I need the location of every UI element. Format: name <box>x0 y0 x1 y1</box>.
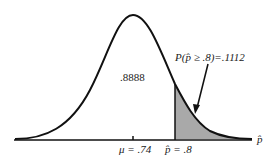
tail-probability-label: P(p̂ ≥ .8)=.1112 <box>175 51 245 63</box>
pointer-arrowhead <box>193 104 200 114</box>
mean-label: μ = .74 <box>119 143 151 155</box>
axis-label: p̂ <box>257 133 263 145</box>
cutoff-label: p̂ = .8 <box>165 143 192 155</box>
center-area-label: .8888 <box>120 71 145 83</box>
pointer-arrow-shaft <box>197 64 208 108</box>
